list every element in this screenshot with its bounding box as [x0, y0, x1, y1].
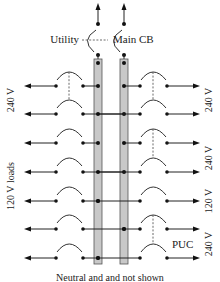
- breaker-terminal: [81, 141, 85, 145]
- bus-tap: [122, 227, 126, 231]
- breaker-arc-left: [57, 72, 82, 80]
- arrow-right-icon: [193, 227, 200, 232]
- label-right-240v-a: 240 V: [203, 87, 214, 112]
- arrow-left-icon: [24, 227, 31, 232]
- breaker-arc-left: [57, 158, 82, 166]
- breaker-terminal: [81, 256, 85, 260]
- label-120v-loads: 120 V loads: [5, 162, 16, 210]
- arrow-right-icon: [193, 112, 200, 117]
- arrow-right-icon: [193, 199, 200, 204]
- breaker-terminal: [81, 84, 85, 88]
- main-cb-label: Main CB: [113, 33, 154, 45]
- label-puc: PUC: [172, 238, 193, 250]
- footer-note: Neutral and and not shown: [56, 272, 164, 282]
- breaker-arc-left: [57, 215, 82, 223]
- main-breaker-left-arc: [87, 30, 96, 52]
- bus-tap: [96, 112, 100, 116]
- breaker-terminal: [81, 170, 85, 174]
- service-entrance: Utility Main CB: [50, 3, 153, 63]
- arrow-left-icon: [24, 141, 31, 146]
- panel-diagram: Utility Main CB 240 V 120 V loads 240 V …: [0, 0, 220, 282]
- breaker-terminal: [138, 112, 142, 116]
- breaker-arc-left: [57, 244, 82, 252]
- bus-tap: [96, 199, 100, 203]
- breaker-arc-left: [57, 187, 82, 195]
- breaker-terminal: [138, 84, 142, 88]
- arrow-right-icon: [193, 170, 200, 175]
- breaker-arc-right: [141, 158, 166, 166]
- arrow-left-icon: [24, 256, 31, 261]
- bus-tap: [96, 141, 100, 145]
- arrow-left-icon: [24, 170, 31, 175]
- breaker-terminal: [138, 199, 142, 203]
- breaker-terminal: [138, 227, 142, 231]
- breaker-arc-right: [141, 215, 166, 223]
- breaker-terminal: [81, 112, 85, 116]
- breaker-terminal: [138, 141, 142, 145]
- arrow-left-icon: [24, 112, 31, 117]
- arrow-right-icon: [193, 141, 200, 146]
- bus-tap: [96, 84, 100, 88]
- label-left-240v: 240 V: [5, 87, 16, 112]
- bus-tap: [96, 256, 100, 260]
- breaker-terminal: [138, 170, 142, 174]
- breaker-terminal: [81, 227, 85, 231]
- breaker-arc-right: [141, 72, 166, 80]
- breaker-arc-right: [141, 187, 166, 195]
- breaker-arc-right: [141, 129, 166, 137]
- arrow-right-icon: [193, 84, 200, 89]
- breaker-arc-right: [141, 244, 166, 252]
- utility-label: Utility: [50, 33, 79, 45]
- breaker-terminal: [138, 256, 142, 260]
- arrow-left-icon: [24, 84, 31, 89]
- bus-tap: [122, 141, 126, 145]
- label-right-240v-b: 240 V: [203, 145, 214, 170]
- bus-bar-l2: [120, 59, 128, 264]
- branch-circuits: [24, 72, 200, 260]
- arrow-left-icon: [24, 199, 31, 204]
- arrow-right-icon: [193, 256, 200, 261]
- breaker-arc-left: [57, 129, 82, 137]
- breaker-terminal: [81, 199, 85, 203]
- arrow-up-icon: [96, 3, 101, 10]
- breaker-arc-right: [141, 100, 166, 108]
- arrow-up-icon: [122, 3, 127, 10]
- breaker-arc-left: [57, 100, 82, 108]
- label-right-120v: 120 V: [203, 188, 214, 213]
- label-right-240v-c: 240 V: [203, 231, 214, 256]
- bus-bar-l1: [94, 59, 102, 264]
- bus-bars: [94, 59, 128, 264]
- bus-tap: [96, 170, 100, 174]
- bus-tap: [122, 84, 126, 88]
